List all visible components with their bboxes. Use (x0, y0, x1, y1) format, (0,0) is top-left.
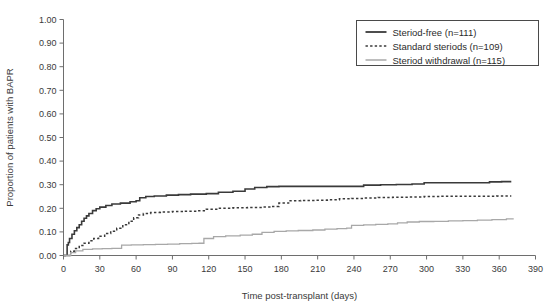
x-tick-label: 390 (528, 264, 543, 274)
x-tick-label: 0 (61, 264, 66, 274)
x-tick-label: 30 (95, 264, 105, 274)
y-tick-label: 0.90 (39, 38, 57, 48)
y-tick-label: 0.70 (39, 86, 57, 96)
x-tick-label: 270 (383, 264, 398, 274)
y-axis-title: Proportion of patients with BAPR (4, 68, 15, 206)
y-tick-label: 0.10 (39, 227, 57, 237)
series-line-2 (64, 219, 514, 256)
y-tick-label: 0.00 (39, 251, 57, 261)
x-tick-label: 180 (274, 264, 289, 274)
legend-label-1: Standard steriods (n=109) (393, 41, 503, 52)
y-tick-label: 1.00 (39, 15, 57, 25)
series-line-1 (64, 196, 512, 255)
x-tick-label: 120 (201, 264, 216, 274)
y-tick-label: 0.40 (39, 156, 57, 166)
x-tick-label: 210 (310, 264, 325, 274)
kaplan-meier-chart: 0.000.100.200.300.400.500.600.700.800.90… (0, 0, 547, 307)
legend-label-2: Steriod withdrawal (n=115) (393, 55, 506, 66)
y-tick-label: 0.30 (39, 180, 57, 190)
x-tick-label: 300 (419, 264, 434, 274)
legend-label-0: Steriod-free (n=111) (393, 27, 477, 38)
x-tick-label: 360 (492, 264, 507, 274)
x-tick-label: 330 (455, 264, 470, 274)
y-tick-label: 0.80 (39, 62, 57, 72)
x-tick-label: 90 (167, 264, 177, 274)
chart-figure: 0.000.100.200.300.400.500.600.700.800.90… (0, 0, 547, 307)
y-tick-label: 0.50 (39, 133, 57, 143)
x-tick-label: 60 (131, 264, 141, 274)
x-tick-label: 150 (238, 264, 253, 274)
y-tick-label: 0.60 (39, 109, 57, 119)
y-tick-label: 0.20 (39, 204, 57, 214)
x-tick-label: 240 (346, 264, 361, 274)
x-axis-title: Time post-transplant (days) (242, 290, 357, 301)
